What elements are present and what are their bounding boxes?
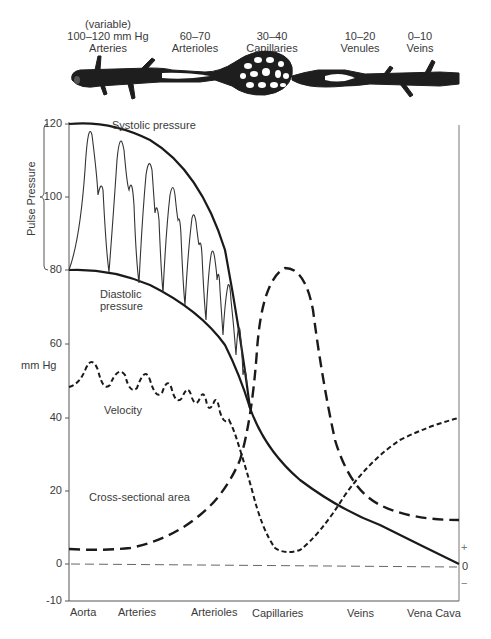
x-label-vena-cava: Vena Cava [407, 607, 461, 619]
velocity-line [69, 362, 459, 552]
pressure-word: pressure [100, 300, 143, 312]
y-tick-60: 60 [32, 337, 62, 349]
y-tick-40: 40 [32, 411, 62, 423]
pressure-chart [0, 0, 491, 639]
pulse-oscillation-line [69, 132, 247, 385]
x-label-aorta: Aorta [70, 606, 96, 618]
y-tick-neg10: -10 [32, 594, 62, 606]
diastolic-pressure-annotation: Diastolic pressure Diastolic pressure [100, 288, 143, 312]
right-tick-minus: − [461, 577, 467, 589]
x-label-arterioles: Arterioles [191, 606, 237, 618]
zero-baseline [71, 564, 457, 567]
y-tick-120: 120 [32, 117, 62, 129]
velocity-annotation: Velocity [104, 404, 142, 416]
diastolic-word: Diastolic [100, 288, 143, 300]
x-label-arteries: Arteries [118, 606, 156, 618]
systolic-pressure-annotation: Systolic pressure [112, 119, 196, 131]
cross-sectional-area-annotation: Cross-sectional area [89, 491, 190, 503]
x-label-veins: Veins [347, 607, 374, 619]
y-axis-label: mm Hg [21, 359, 56, 371]
y-tick-0: 0 [32, 557, 62, 569]
right-tick-zero: 0 [462, 560, 468, 572]
diastolic-pressure-line [69, 270, 250, 408]
y-tick-80: 80 [32, 263, 62, 275]
right-tick-plus: + [461, 541, 467, 553]
x-label-capillaries: Capillaries [252, 607, 303, 619]
y-tick-20: 20 [32, 484, 62, 496]
pulse-pressure-label: Pulse Pressure [25, 161, 37, 236]
